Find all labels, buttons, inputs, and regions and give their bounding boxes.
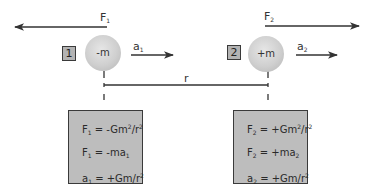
separation-label: r bbox=[184, 73, 189, 84]
force-1-label: F1 bbox=[100, 12, 110, 24]
equation: F2 = +Gm2/r2 bbox=[247, 117, 307, 143]
force-2-label: F2 bbox=[264, 11, 274, 23]
body-2-index-box: 2 bbox=[227, 45, 241, 60]
equation: a2 = +Gm/r2 bbox=[247, 166, 307, 192]
equations-box-1: F1 = -Gm2/r2 F1 = -ma1 a1 = +Gm/r2 bbox=[68, 110, 143, 184]
equations-box-2: F2 = +Gm2/r2 F2 = +ma2 a2 = +Gm/r2 bbox=[233, 110, 308, 184]
body-1-index-box: 1 bbox=[62, 46, 76, 61]
acceleration-1-label: a1 bbox=[133, 41, 144, 53]
equation: F2 = +ma2 bbox=[247, 143, 307, 166]
diagram-lines bbox=[0, 0, 375, 196]
equation: a1 = +Gm/r2 bbox=[82, 166, 142, 192]
acceleration-2-label: a2 bbox=[297, 41, 308, 53]
mass-1-ball: -m bbox=[85, 35, 121, 71]
equation: F1 = -ma1 bbox=[82, 143, 142, 166]
equation: F1 = -Gm2/r2 bbox=[82, 117, 142, 143]
mass-2-ball: +m bbox=[248, 36, 284, 72]
